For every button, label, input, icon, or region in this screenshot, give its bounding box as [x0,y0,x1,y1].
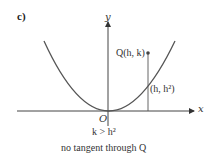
panel-label: c) [17,11,26,22]
point-q [146,51,150,55]
x-axis-label: x [198,104,204,114]
point-q-label: Q(h, k) [116,48,145,58]
figure-panel-c: c) x y O Q(h, k) (h, h²) k > h² no tange… [0,0,208,160]
curve-point-label: (h, h²) [150,84,175,94]
y-axis-label: y [105,12,111,22]
caption: no tangent through Q [61,143,146,153]
parabola-curve [44,41,175,111]
condition-label: k > h² [92,127,116,137]
origin-label: O [99,114,107,124]
